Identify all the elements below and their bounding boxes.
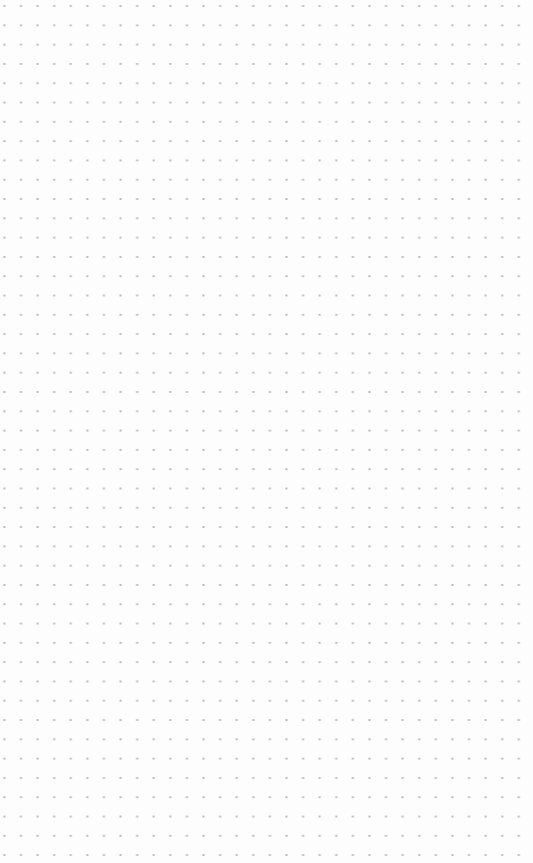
dot-grid-canvas[interactable]: [0, 0, 533, 863]
